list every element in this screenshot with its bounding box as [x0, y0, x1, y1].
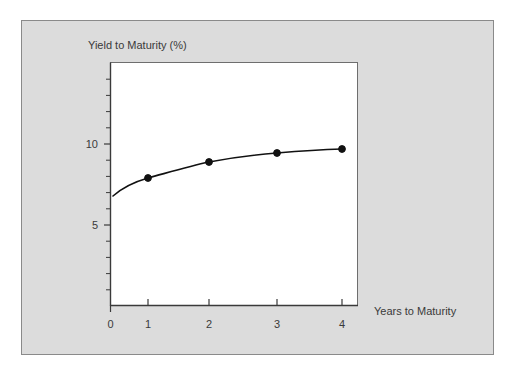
- chart-panel-background: [21, 20, 494, 355]
- figure-root: Yield to Maturity (%) Years to Maturity …: [0, 0, 514, 380]
